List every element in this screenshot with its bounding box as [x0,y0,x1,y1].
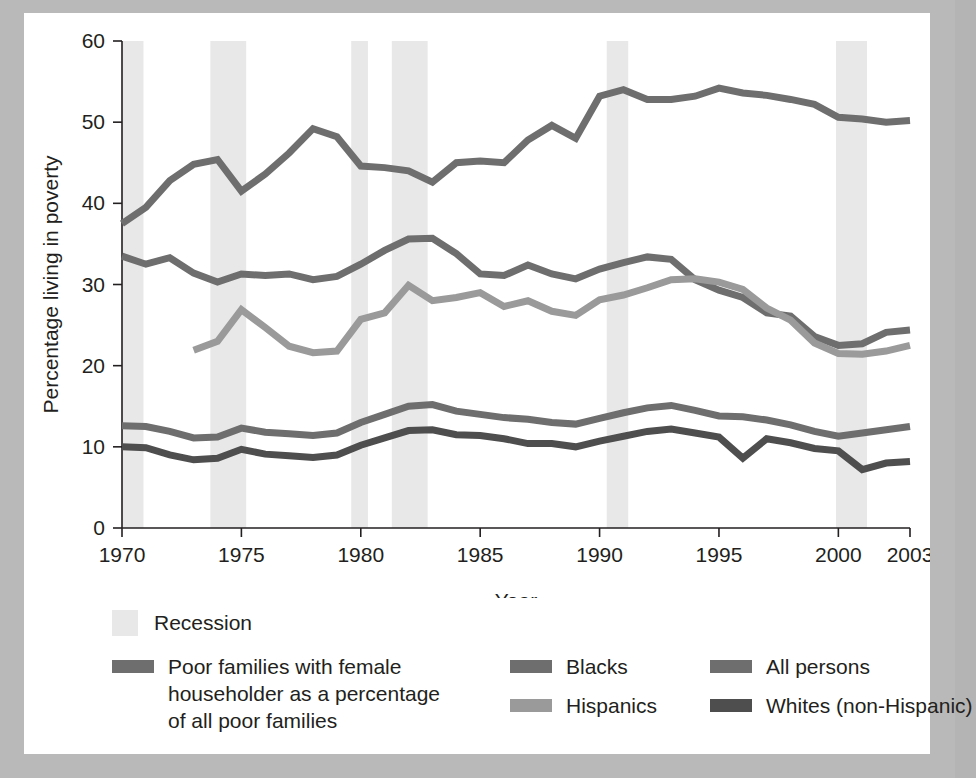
legend-label-poor-families: Poor families with female householder as… [168,654,440,735]
legend-column-3: All persons Whites (non-Hispanic) [710,654,976,732]
legend-item-whites: Whites (non-Hispanic) [710,693,976,720]
legend-swatch-all-persons [710,660,752,673]
recession-band-5 [607,41,628,528]
y-tick-label: 40 [82,191,105,214]
y-axis-title: Percentage living in poverty [39,155,62,413]
legend-label-all-persons: All persons [766,654,870,681]
chart-legend: Recession Poor families with female hous… [24,598,930,754]
y-tick-label: 30 [82,273,105,296]
legend-column-1: Poor families with female householder as… [112,654,442,747]
x-tick-label: 1980 [337,543,384,566]
x-axis-title: Year [495,589,537,598]
chart-plot-area: 0102030405060197019751980198519901995200… [24,13,930,598]
poverty-line-chart: 0102030405060197019751980198519901995200… [24,13,930,598]
y-tick-label: 60 [82,29,105,52]
recession-band-1 [122,41,143,528]
legend-swatch-whites [710,699,752,712]
x-tick-label: 2000 [815,543,862,566]
legend-label-blacks: Blacks [566,654,628,681]
series-line-2 [194,279,910,354]
y-tick-label: 20 [82,354,105,377]
y-tick-label: 0 [93,516,105,539]
legend-column-2: Blacks Hispanics [510,654,700,732]
recession-band-3 [351,41,368,528]
legend-item-hispanics: Hispanics [510,693,700,720]
legend-label-recession: Recession [154,610,252,637]
legend-label-whites: Whites (non-Hispanic) [766,693,973,720]
x-tick-label: 1975 [218,543,265,566]
y-tick-label: 50 [82,110,105,133]
legend-item-poor-families: Poor families with female householder as… [112,654,442,735]
x-tick-label: 2003 [887,543,930,566]
legend-swatch-poor-families [112,660,154,673]
x-tick-label: 1985 [457,543,504,566]
figure-card: 0102030405060197019751980198519901995200… [24,13,930,754]
legend-item-blacks: Blacks [510,654,700,681]
recession-swatch [112,610,138,636]
y-tick-label: 10 [82,435,105,458]
x-tick-label: 1990 [576,543,623,566]
x-tick-label: 1970 [99,543,146,566]
legend-swatch-hispanics [510,699,552,712]
legend-swatch-blacks [510,660,552,673]
legend-item-all-persons: All persons [710,654,976,681]
legend-item-recession: Recession [112,610,252,637]
x-tick-label: 1995 [696,543,743,566]
legend-label-hispanics: Hispanics [566,693,657,720]
